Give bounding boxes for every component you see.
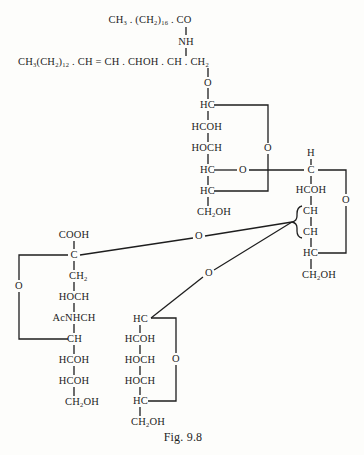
galactose-link-oxygen: O	[205, 267, 213, 279]
fatty-acid-chain: CH3 . (CH2)16 . CO	[108, 14, 191, 26]
figure-caption: Fig. 9.8	[164, 431, 203, 443]
glucose-c3: HOCH	[191, 142, 222, 154]
sialic-c5: AcNHCH	[52, 312, 95, 324]
glucose-c6: CH2OH	[197, 206, 231, 218]
galactose-c4: CH	[303, 226, 318, 238]
amide-nh: NH	[178, 36, 194, 48]
sialic-c7: HCOH	[59, 354, 90, 366]
galactose-c3: CH	[303, 205, 318, 217]
galactose-top-h: H	[307, 147, 315, 159]
sialic-c3: CH2	[69, 270, 87, 282]
galactose-c5: HC	[303, 247, 318, 259]
glucose-glycosidic-oxygen: O	[239, 164, 247, 176]
sphingosine-chain: CH3(CH2)12 . CH = CH . CHOH . CH . CH2	[18, 56, 209, 68]
galactose-ring-oxygen: O	[342, 194, 350, 206]
sialic-c4: HOCH	[59, 291, 90, 303]
lower-galactose-c4: HOCH	[125, 375, 156, 387]
lower-galactose-c1: HC	[133, 313, 148, 325]
sialic-cooh: COOH	[59, 229, 90, 241]
glucose-ring-oxygen: O	[264, 142, 272, 154]
lower-galactose-c6: CH2OH	[131, 416, 165, 428]
galactose-c2: HCOH	[296, 184, 327, 196]
lower-galactose-c2: HCOH	[125, 333, 156, 345]
sialic-c6: CH	[67, 333, 82, 345]
sialic-ring-oxygen: O	[15, 280, 23, 292]
sialic-link-oxygen: O	[195, 230, 203, 242]
lower-galactose-c5: HC	[133, 395, 148, 407]
galactose-c1: C	[307, 164, 314, 176]
lower-galactose-c3: HOCH	[125, 354, 156, 366]
glucose-c1: HC	[200, 99, 215, 111]
glucose-c4: HC	[200, 164, 215, 176]
glucose-c5: HC	[200, 185, 215, 197]
lower-galactose-ring-oxygen: O	[172, 353, 180, 365]
sialic-c2: C	[70, 249, 77, 261]
ceramide-link-oxygen: O	[204, 77, 212, 89]
sialic-c8: HCOH	[59, 375, 90, 387]
glucose-c2: HCOH	[191, 121, 222, 133]
sialic-c9: CH2OH	[65, 396, 99, 408]
galactose-c6: CH2OH	[302, 269, 336, 281]
